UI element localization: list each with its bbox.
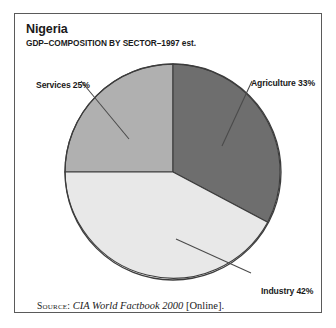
source-suffix: [Online]. xyxy=(186,300,224,311)
source-citation: Source: CIA World Factbook 2000 [Online]… xyxy=(37,300,224,312)
pie-chart xyxy=(15,14,321,312)
pie-label-industry: Industry 42% xyxy=(261,286,313,296)
source-label: Source: xyxy=(37,300,70,311)
figure-panel: Nigeria GDP–COMPOSITION BY SECTOR–1997 e… xyxy=(14,13,322,313)
pie-label-agriculture: Agriculture 33% xyxy=(251,78,315,88)
source-title: CIA World Factbook 2000 xyxy=(73,300,184,311)
pie-label-services: Services 25% xyxy=(36,80,90,90)
